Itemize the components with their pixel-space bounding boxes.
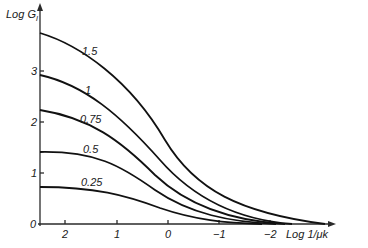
x-tick-label: 0 [165,228,172,240]
x-axis-title: Log 1/μk [286,228,329,240]
y-axis-arrow-icon [37,3,43,11]
y-tick-label: 0 [30,218,37,230]
y-ticks: 0 1 2 3 [30,65,44,230]
curve-label: 1.5 [82,45,98,57]
x-tick-label: −2 [264,228,277,240]
x-tick-label: 2 [61,228,68,240]
y-tick-label: 3 [31,65,38,77]
curve-label: 1 [85,84,91,96]
curve-label: 0.5 [83,143,99,155]
x-tick-label: 1 [114,228,120,240]
y-tick-label: 1 [31,167,37,179]
x-axis-arrow-icon [328,221,336,227]
curve-label: 0.25 [81,176,103,188]
curve-label: 0.75 [80,113,102,125]
x-tick-label: −1 [213,228,226,240]
y-axis-title: Log Gl [6,8,38,23]
chart: 0 1 2 3 2 1 0 −1 −2 Log Gl Log 1/μk 1.5 … [0,0,368,248]
curve-1 [40,75,292,224]
y-tick-label: 2 [30,116,37,128]
